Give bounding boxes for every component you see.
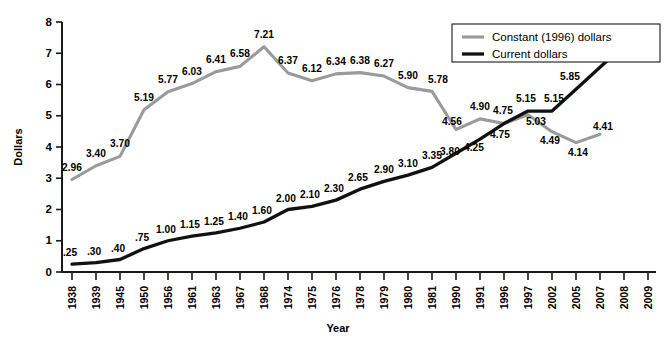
data-point-label: 5.77 [158, 74, 178, 85]
data-point-label: 3.80 [440, 146, 460, 157]
data-point-label: 5.15 [516, 93, 536, 104]
y-axis-tick-label: 0 [46, 266, 52, 278]
x-axis-tick-label: 1961 [186, 286, 198, 310]
x-axis-tick-label: 1974 [282, 286, 294, 310]
data-point-label: 4.90 [470, 101, 490, 112]
data-point-label: 6.34 [326, 56, 346, 67]
y-axis-title: Dollars [12, 128, 24, 165]
y-axis-tick-label: 1 [46, 234, 53, 246]
data-point-label: 2.30 [324, 183, 344, 194]
x-axis-tick-label: 1963 [210, 286, 222, 310]
data-point-label: 5.19 [134, 92, 154, 103]
x-axis-tick-label: 2008 [618, 286, 630, 310]
data-point-label: 4.75 [493, 105, 513, 116]
data-point-label: 5.78 [428, 74, 448, 85]
data-point-label: 3.40 [86, 148, 106, 159]
x-axis-tick-label: 1978 [354, 286, 366, 310]
x-axis-tick-label: 2005 [570, 286, 582, 310]
x-axis-title: Year [326, 322, 350, 334]
data-point-label: 1.15 [180, 219, 200, 230]
line-chart: 012345678Dollars193819391945195019561961… [0, 0, 671, 345]
data-point-label: 1.60 [252, 205, 272, 216]
data-point-label: 4.14 [568, 147, 588, 158]
data-point-label: 6.12 [302, 63, 322, 74]
data-point-label: 4.25 [464, 142, 484, 153]
data-point-label: 3.70 [110, 138, 130, 149]
data-point-label: 6.58 [230, 48, 250, 59]
data-point-label: 6.37 [278, 55, 298, 66]
x-axis-tick-label: 2002 [546, 286, 558, 310]
data-point-label: 2.00 [276, 193, 296, 204]
data-point-label: 5.15 [544, 93, 564, 104]
data-point-label: 1.25 [204, 216, 224, 227]
x-axis-tick-label: 1975 [306, 286, 318, 310]
legend-label-current-dollars: Current dollars [492, 48, 568, 60]
x-axis-tick-label: 1979 [378, 286, 390, 310]
data-point-label: 4.56 [442, 116, 462, 127]
x-axis-tick-label: 1990 [450, 286, 462, 310]
chart-container: 012345678Dollars193819391945195019561961… [0, 0, 671, 345]
y-axis-tick-label: 5 [46, 109, 53, 121]
x-axis-tick-label: 1967 [234, 286, 246, 310]
series-line-current-dollars [72, 45, 624, 264]
y-axis-tick-label: 2 [46, 203, 52, 215]
x-axis-tick-label: 2007 [594, 286, 606, 310]
data-point-label: 2.96 [62, 162, 82, 173]
data-point-label: .25 [63, 247, 77, 258]
x-axis-tick-label: 1981 [426, 286, 438, 310]
y-axis-tick-label: 6 [46, 78, 52, 90]
x-axis-tick-label: 1997 [522, 286, 534, 310]
x-axis-tick-label: 1991 [474, 286, 486, 310]
data-point-label: 5.03 [526, 116, 546, 127]
data-point-label: 1.40 [228, 211, 248, 222]
x-axis-tick-label: 1976 [330, 286, 342, 310]
x-axis-tick-label: 1996 [498, 286, 510, 310]
data-point-label: .30 [87, 246, 101, 257]
legend-label-constant-dollars: Constant (1996) dollars [492, 31, 612, 43]
x-axis-tick-label: 2009 [642, 286, 654, 310]
data-point-label: 3.10 [398, 158, 418, 169]
y-axis-tick-label: 3 [46, 172, 52, 184]
data-point-label: 1.00 [156, 224, 176, 235]
data-point-label: .40 [111, 243, 125, 254]
data-point-label: 4.41 [593, 121, 613, 132]
data-point-label: 6.03 [182, 66, 202, 77]
data-point-label: 6.41 [206, 54, 226, 65]
x-axis-tick-label: 1945 [114, 286, 126, 310]
x-axis-tick-label: 1968 [258, 286, 270, 310]
data-point-label: 2.90 [374, 164, 394, 175]
data-point-label: 5.85 [560, 71, 580, 82]
data-point-label: 5.90 [398, 70, 418, 81]
data-point-label: 4.75 [490, 129, 510, 140]
x-axis-tick-label: 1956 [162, 286, 174, 310]
data-point-label: 6.27 [374, 58, 394, 69]
data-point-label: .75 [135, 232, 149, 243]
data-point-label: 6.38 [350, 55, 370, 66]
x-axis-tick-label: 1938 [66, 286, 78, 310]
y-axis-tick-label: 8 [46, 16, 53, 28]
data-point-label: 2.10 [300, 189, 320, 200]
x-axis-tick-label: 1950 [138, 286, 150, 310]
x-axis-tick-label: 1980 [402, 286, 414, 310]
y-axis-tick-label: 4 [46, 141, 53, 153]
data-point-label: 7.21 [254, 29, 274, 40]
x-axis-tick-label: 1939 [90, 286, 102, 310]
data-point-label: 4.49 [540, 135, 560, 146]
y-axis-tick-label: 7 [46, 47, 52, 59]
data-point-label: 2.65 [348, 172, 368, 183]
